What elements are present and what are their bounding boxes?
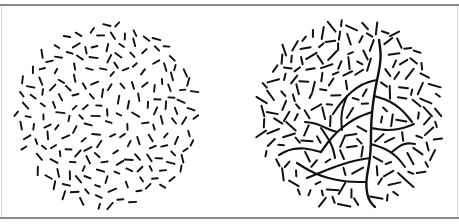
- texture-element: [74, 63, 75, 69]
- texture-element: [413, 100, 421, 107]
- texture-element: [295, 114, 298, 120]
- texture-element: [296, 84, 299, 94]
- texture-element: [321, 73, 322, 81]
- texture-element: [414, 51, 421, 53]
- texture-element: [338, 61, 341, 69]
- texture-element: [191, 91, 199, 92]
- texture-element: [417, 172, 426, 173]
- texture-element: [326, 159, 331, 162]
- texture-element: [132, 112, 139, 116]
- texture-element: [413, 148, 422, 154]
- texture-element: [160, 170, 166, 171]
- texture-element: [352, 168, 363, 174]
- texture-element: [115, 53, 121, 58]
- texture-element: [354, 198, 358, 205]
- texture-element: [35, 139, 37, 144]
- figure-root: Two circular texture stimuli side by sid…: [0, 0, 459, 224]
- texture-element: [142, 49, 146, 53]
- texture-element: [418, 112, 419, 118]
- texture-element: [22, 76, 23, 83]
- texture-element: [394, 72, 399, 79]
- texture-element: [140, 177, 143, 181]
- texture-element: [133, 63, 137, 66]
- texture-element: [63, 191, 66, 199]
- texture-element: [355, 70, 363, 75]
- texture-element: [74, 75, 75, 82]
- texture-element: [24, 135, 30, 139]
- texture-element: [416, 136, 422, 138]
- texture-element: [86, 156, 90, 163]
- texture-element: [180, 166, 181, 172]
- texture-element: [367, 33, 372, 36]
- texture-element: [155, 46, 159, 50]
- texture-element: [66, 86, 71, 91]
- texture-element: [142, 123, 148, 124]
- texture-element: [308, 190, 310, 195]
- texture-element: [319, 43, 324, 47]
- texture-element: [281, 91, 285, 96]
- texture-element: [376, 22, 377, 34]
- texture-element: [125, 160, 133, 161]
- texture-element: [67, 52, 73, 54]
- texture-element: [362, 23, 368, 29]
- texture-element: [108, 84, 112, 90]
- texture-element: [385, 69, 390, 76]
- contour-right-hook-branch: [392, 143, 415, 152]
- texture-element: [14, 112, 18, 116]
- texture-element: [348, 52, 353, 54]
- texture-element: [188, 108, 195, 110]
- texture-element: [170, 56, 175, 61]
- texture-element: [174, 65, 176, 70]
- contour-left-arc-branch: [279, 148, 321, 155]
- texture-element: [338, 204, 351, 207]
- texture-element: [96, 195, 102, 198]
- texture-element: [106, 121, 112, 123]
- texture-element: [292, 41, 297, 50]
- texture-element: [346, 81, 347, 89]
- texture-element: [346, 134, 356, 136]
- contour-right-mid-branch: [371, 124, 414, 130]
- texture-element: [304, 125, 309, 135]
- texture-element: [47, 131, 48, 139]
- texture-element: [154, 107, 157, 114]
- texture-element: [53, 102, 55, 108]
- texture-element: [188, 131, 190, 136]
- texture-element: [115, 22, 119, 26]
- texture-element: [44, 125, 50, 128]
- texture-element: [107, 44, 109, 51]
- texture-element: [267, 112, 278, 114]
- texture-element: [132, 82, 134, 89]
- texture-element: [71, 192, 79, 193]
- texture-element: [117, 113, 122, 115]
- texture-element: [377, 166, 378, 175]
- texture-element: [166, 101, 167, 109]
- texture-element: [374, 157, 383, 162]
- texture-element: [301, 57, 303, 64]
- texture-element: [328, 22, 336, 32]
- texture-element: [273, 65, 278, 72]
- texture-element: [79, 115, 83, 119]
- texture-element: [55, 69, 57, 73]
- texture-element: [111, 72, 114, 76]
- texture-element: [420, 99, 431, 104]
- texture-element: [182, 155, 184, 163]
- texture-element: [268, 79, 279, 82]
- texture-element: [102, 89, 103, 97]
- texture-element: [424, 117, 430, 124]
- texture-element: [46, 61, 53, 63]
- texture-element: [407, 153, 413, 164]
- texture-element: [45, 175, 51, 179]
- texture-element: [84, 147, 91, 151]
- texture-element: [55, 45, 60, 48]
- texture-element: [370, 40, 374, 51]
- texture-element: [40, 68, 45, 69]
- texture-element: [427, 142, 429, 150]
- texture-element: [284, 67, 291, 68]
- texture-element: [317, 55, 322, 63]
- bottom-rule: [0, 217, 459, 219]
- texture-element: [86, 68, 93, 70]
- texture-element: [330, 116, 331, 126]
- texture-element: [154, 85, 155, 92]
- texture-element: [261, 106, 264, 117]
- texture-element: [164, 133, 168, 137]
